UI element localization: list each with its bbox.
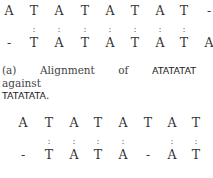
gap: - <box>0 35 19 51</box>
caption-period: . <box>46 89 49 101</box>
residue: T <box>186 147 206 163</box>
alignment-a-bottom-row: - T A T A T A T A <box>0 35 213 51</box>
residue: T <box>39 147 59 163</box>
residue: T <box>186 115 206 131</box>
residue: T <box>138 115 158 131</box>
residue: T <box>39 115 59 131</box>
gap: - <box>199 3 213 19</box>
residue: A <box>0 3 19 19</box>
alignment-b-bottom-row: - T A T A - A T <box>0 147 213 163</box>
residue: A <box>100 35 120 51</box>
residue: A <box>162 115 182 131</box>
gap: - <box>13 147 33 163</box>
residue: A <box>49 3 69 19</box>
residue: A <box>113 115 133 131</box>
caption-label: (a) <box>2 64 16 76</box>
residue: T <box>24 35 44 51</box>
residue: T <box>88 115 108 131</box>
caption-text: Alignment <box>40 64 95 76</box>
caption-text: against <box>2 77 41 89</box>
residue: T <box>125 35 145 51</box>
residue: A <box>113 147 133 163</box>
residue: A <box>199 35 213 51</box>
residue: T <box>88 147 108 163</box>
caption-sequence: TATATATA <box>2 90 46 101</box>
residue: A <box>13 115 33 131</box>
residue: A <box>49 35 69 51</box>
residue: A <box>100 3 120 19</box>
residue: A <box>150 35 170 51</box>
caption-a: (a) Alignment of ATATATAT against TATATA… <box>2 64 211 102</box>
alignment-a-top-row: A T A T A T A T - <box>0 3 213 19</box>
residue: T <box>174 3 194 19</box>
residue: T <box>75 35 95 51</box>
caption-sequence: ATATATAT <box>152 65 196 76</box>
residue: A <box>150 3 170 19</box>
alignment-b-top-row: A T A T A T A T <box>0 115 213 131</box>
residue: T <box>75 3 95 19</box>
residue: A <box>64 115 84 131</box>
gap: - <box>138 147 158 163</box>
residue: A <box>64 147 84 163</box>
residue: T <box>24 3 44 19</box>
residue: T <box>125 3 145 19</box>
caption-text: of <box>118 64 128 76</box>
residue: T <box>174 35 194 51</box>
residue: A <box>162 147 182 163</box>
